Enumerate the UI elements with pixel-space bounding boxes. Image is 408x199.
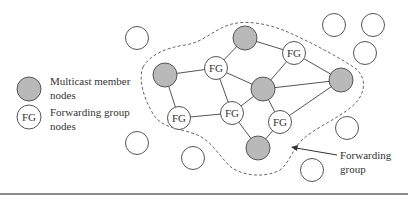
figure-bottom-rule — [0, 193, 408, 195]
member-node-swatch-icon — [17, 77, 41, 101]
non-member-node — [182, 147, 205, 170]
annotation-arrow-line — [296, 148, 337, 155]
fg-node-label: FG — [172, 112, 186, 124]
arrow-head-icon — [291, 145, 298, 151]
non-member-node — [354, 42, 377, 65]
member-node-m-bottom — [246, 136, 270, 160]
annotation-label-line1: Forwarding — [340, 149, 392, 161]
legend-member-label-line2: nodes — [50, 89, 76, 101]
fg-node-fg-bottom-left: FG — [168, 107, 191, 130]
legend-member-label-line1: Multicast member — [50, 75, 131, 87]
fg-node-fg-top-left: FG — [205, 57, 228, 80]
member-node-m-right — [329, 68, 353, 92]
member-node-m-left — [153, 63, 177, 87]
fg-node-label: FG — [273, 116, 287, 128]
fg-node-label: FG — [209, 62, 223, 74]
fg-node-fg-bottom-mid: FG — [221, 102, 244, 125]
member-node-m-top — [233, 26, 257, 50]
non-member-node — [301, 159, 324, 182]
fg-node-label: FG — [225, 107, 239, 119]
fg-node-label: FG — [287, 47, 301, 59]
forwarding-group-nodes: FGFGFGFGFG — [168, 42, 306, 134]
non-member-node — [126, 132, 149, 155]
fg-node-fg-top-right: FG — [283, 42, 306, 65]
non-member-node — [362, 14, 385, 37]
non-member-node — [323, 14, 346, 37]
legend-fg-symbol: FG — [22, 111, 36, 123]
forwarding-group-diagram: FGFGFGFGFG Multicast member nodes FG For… — [0, 0, 408, 199]
non-member-node — [126, 27, 149, 50]
annotation-label-line2: group — [340, 163, 366, 175]
member-node-m-center — [251, 77, 275, 101]
fg-node-fg-bottom-right: FG — [269, 111, 292, 134]
legend: Multicast member nodes FG Forwarding gro… — [17, 75, 131, 132]
legend-forwarding-label-line1: Forwarding group — [50, 106, 130, 118]
legend-member: Multicast member nodes — [17, 75, 131, 101]
non-member-node — [336, 117, 359, 140]
legend-forwarding-label-line2: nodes — [50, 120, 76, 132]
legend-forwarding: FG Forwarding group nodes — [17, 105, 130, 132]
